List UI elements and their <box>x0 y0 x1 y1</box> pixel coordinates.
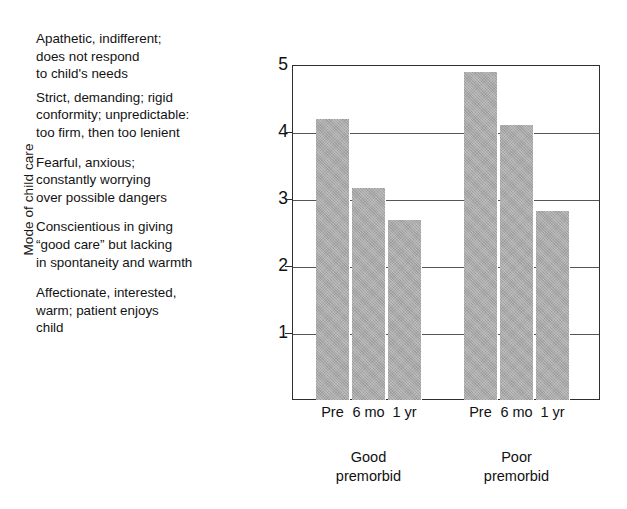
bar <box>500 125 534 400</box>
figure-root: Mode of child care Apathetic, indifferen… <box>0 0 627 509</box>
group-label: Poor premorbid <box>442 448 591 486</box>
plot-area: 12345 Pre6 mo1 yrPre6 mo1 yr Good premor… <box>0 0 627 509</box>
x-axis-tick-labels: Pre6 mo1 yrPre6 mo1 yr <box>292 404 600 428</box>
bar <box>316 119 350 400</box>
y-axis-tick-label: 5 <box>262 56 288 74</box>
bar <box>536 211 570 400</box>
bar <box>352 188 386 400</box>
group-label: Good premorbid <box>294 448 443 486</box>
group-labels: Good premorbidPoor premorbid <box>292 448 600 500</box>
x-axis-tick-label: 1 yr <box>530 404 575 420</box>
bar <box>464 72 498 400</box>
bar <box>388 220 422 400</box>
x-axis-tick-label: 1 yr <box>382 404 427 420</box>
y-axis-tick-labels: 12345 <box>262 0 288 509</box>
bar-series-layer <box>292 65 600 400</box>
